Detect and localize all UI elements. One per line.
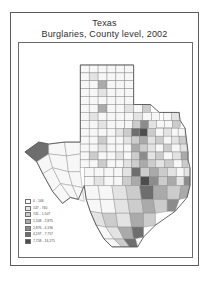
legend-swatch-class6 (25, 232, 31, 237)
south-texas-counties (84, 186, 181, 247)
title-block: Texas Burglaries, County level, 2002 (11, 18, 198, 40)
figure-outer-frame: Texas Burglaries, County level, 2002 (10, 12, 199, 266)
legend-item[interactable]: 741 - 1,507 (25, 212, 55, 218)
legend-label-class2: 147 - 740 (33, 206, 47, 211)
legend-swatch-class1 (25, 199, 31, 204)
legend-swatch-class2 (25, 206, 31, 211)
legend-label-class4: 1,508 - 2,875 (33, 219, 53, 224)
page-title: Texas (11, 18, 198, 29)
legend-swatch-class5 (25, 226, 31, 231)
legend-swatch-class3 (25, 212, 31, 217)
map-subtitle: Burglaries, County level, 2002 (11, 29, 198, 40)
legend-item[interactable]: 4,197 - 7,757 (25, 232, 55, 238)
legend-label-class1: 0 - 146 (33, 199, 44, 204)
legend-swatch-class7 (25, 239, 31, 244)
legend-item[interactable]: 1,508 - 2,875 (25, 218, 55, 224)
map-figure: Texas Burglaries, County level, 2002 (0, 0, 211, 282)
legend-item[interactable]: 7,758 - 16,175 (25, 238, 55, 244)
panhandle-counties (80, 65, 133, 105)
legend-item[interactable]: 0 - 146 (25, 198, 55, 204)
central-texas-counties (114, 136, 184, 185)
map-legend: 0 - 146 147 - 740 741 - 1,507 1,508 - 2,… (25, 198, 55, 245)
legend-label-class5: 2,876 - 4,196 (33, 226, 53, 231)
legend-label-class7: 7,758 - 16,175 (33, 239, 55, 244)
legend-item[interactable]: 2,876 - 4,196 (25, 225, 55, 231)
legend-swatch-class4 (25, 219, 31, 224)
legend-label-class3: 741 - 1,507 (33, 212, 50, 217)
legend-label-class6: 4,197 - 7,757 (33, 232, 53, 237)
map-frame: 0 - 146 147 - 740 741 - 1,507 1,508 - 2,… (18, 42, 193, 258)
legend-item[interactable]: 147 - 740 (25, 205, 55, 211)
